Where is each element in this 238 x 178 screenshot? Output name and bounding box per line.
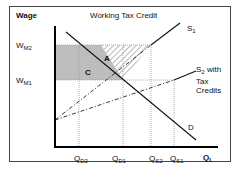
y-axis-label: Wage [16, 12, 37, 20]
q-label-d1: QD1 [112, 155, 126, 164]
area-c-label: C [85, 69, 91, 77]
supply-curve-s1 [151, 23, 180, 45]
wage-label-wm2: WM2 [16, 42, 32, 51]
supply-curve-s2-dashed [55, 80, 174, 120]
demand-label: D [188, 124, 194, 132]
q-label-s2: QS2 [149, 155, 163, 164]
supply-curve-s2 [174, 71, 196, 80]
diagram-title: Working Tax Credit [90, 12, 157, 20]
area-a-label: A [104, 55, 110, 63]
s2-label: S2 withTaxCredits [196, 65, 221, 95]
wage-label-wm1: WM1 [16, 77, 32, 86]
area-a-hatch-2 [123, 45, 151, 80]
s1-label: S1 [187, 25, 196, 34]
q-label-d2: QD2 [74, 155, 88, 164]
x-axis-label: QL [203, 154, 213, 163]
q-label-s1: QS1 [170, 155, 184, 164]
